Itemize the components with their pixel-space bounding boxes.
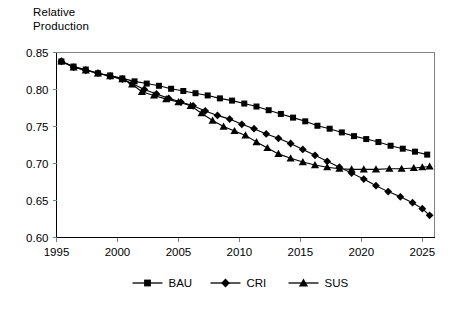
data-point-cri: [238, 120, 246, 128]
data-point-cri: [299, 146, 307, 154]
data-point-bau: [205, 92, 211, 98]
y-axis-tick-label: 0.65: [26, 195, 48, 207]
x-axis-tick-label: 2005: [166, 246, 192, 258]
data-point-bau: [278, 111, 284, 117]
legend-item-bau[interactable]: BAU: [133, 277, 193, 289]
series-line-bau: [61, 61, 427, 154]
data-point-cri: [311, 151, 319, 159]
legend-item-sus[interactable]: SUS: [289, 277, 349, 289]
data-point-bau: [180, 88, 186, 94]
data-point-cri: [262, 130, 270, 138]
data-point-bau: [156, 83, 162, 89]
data-point-cri: [275, 134, 283, 142]
data-point-bau: [302, 118, 308, 124]
data-point-sus: [209, 117, 217, 124]
data-point-bau: [314, 123, 320, 129]
data-point-bau: [388, 143, 394, 149]
series-bau: [58, 58, 430, 157]
data-point-bau: [217, 95, 223, 101]
legend-marker-diamond: [221, 279, 230, 288]
data-point-bau: [327, 126, 333, 132]
series-line-sus: [61, 61, 429, 169]
x-axis-tick-label: 2020: [349, 246, 375, 258]
data-point-cri: [250, 125, 258, 133]
x-axis-tick-label: 2015: [288, 246, 314, 258]
x-axis-tick-label: 2010: [227, 246, 253, 258]
data-point-sus: [230, 127, 238, 134]
chart-plot-area: 0.600.650.700.750.800.85 199520002005201…: [0, 0, 452, 309]
x-axis-tick-marks: [57, 238, 423, 242]
x-axis-tick-label: 1995: [44, 246, 70, 258]
data-point-bau: [339, 129, 345, 135]
y-axis-tick-label: 0.60: [26, 232, 48, 244]
chart-legend: BAUCRISUS: [133, 277, 349, 289]
data-point-sus: [220, 122, 228, 129]
data-point-bau: [168, 86, 174, 92]
data-point-cri: [384, 188, 392, 196]
legend-item-cri[interactable]: CRI: [211, 277, 267, 289]
chart-container: Relative Production 0.600.650.700.750.80…: [0, 0, 452, 309]
data-point-cri: [409, 199, 417, 207]
data-point-sus: [263, 144, 271, 151]
data-point-cri: [360, 175, 368, 183]
data-point-sus: [287, 154, 295, 161]
data-point-bau: [253, 104, 259, 110]
legend-label-cri: CRI: [247, 277, 267, 289]
data-point-sus: [274, 150, 282, 157]
data-point-cri: [287, 140, 295, 148]
data-point-bau: [144, 81, 150, 87]
data-point-bau: [375, 139, 381, 145]
data-point-cri: [214, 112, 222, 120]
data-point-bau: [193, 90, 199, 96]
data-point-cri: [372, 182, 380, 190]
y-axis-tick-labels: 0.600.650.700.750.800.85: [26, 47, 48, 244]
series-sus: [57, 57, 433, 172]
data-point-cri: [226, 115, 234, 123]
data-point-bau: [400, 146, 406, 152]
data-point-bau: [351, 133, 357, 139]
data-point-bau: [229, 98, 235, 104]
data-point-bau: [363, 136, 369, 142]
data-point-bau: [266, 107, 272, 113]
y-axis-tick-label: 0.75: [26, 121, 48, 133]
legend-label-bau: BAU: [169, 277, 193, 289]
data-series-layer: [57, 57, 433, 219]
legend-marker-square: [144, 280, 151, 287]
legend-label-sus: SUS: [325, 277, 349, 289]
x-axis-tick-label: 2000: [105, 246, 131, 258]
y-axis-tick-label: 0.80: [26, 84, 48, 96]
y-axis-tick-marks: [53, 53, 57, 238]
x-axis-tick-labels: 1995200020052010201520202025: [44, 246, 435, 258]
y-axis-tick-label: 0.85: [26, 47, 48, 59]
data-point-sus: [426, 162, 434, 169]
data-point-bau: [412, 149, 418, 155]
data-point-sus: [241, 131, 249, 138]
x-axis: 1995200020052010201520202025: [44, 238, 435, 258]
data-point-bau: [424, 152, 430, 158]
data-point-bau: [290, 115, 296, 121]
y-axis-tick-label: 0.70: [26, 158, 48, 170]
data-point-cri: [396, 193, 404, 201]
x-axis-tick-label: 2025: [410, 246, 436, 258]
y-axis: 0.600.650.700.750.800.85: [26, 47, 56, 244]
data-point-bau: [241, 101, 247, 107]
data-point-sus: [252, 138, 260, 145]
